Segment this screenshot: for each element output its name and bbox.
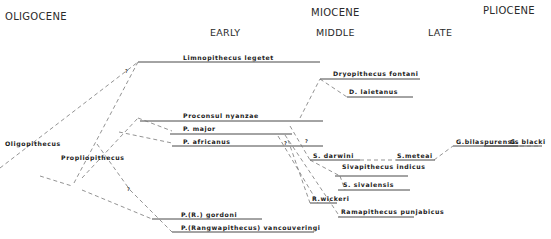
taxon-proconsul-nyanzae: Proconsul nyanzae: [183, 112, 259, 119]
uncertainty-mark: ?: [305, 138, 308, 144]
subdivision-label-early: EARLY: [210, 27, 240, 38]
epoch-label-miocene: MIOCENE: [311, 7, 360, 18]
uncertainty-mark: ?: [125, 68, 128, 74]
taxon-s-meteai: S.meteai: [397, 152, 433, 159]
epoch-label-oligocene: OLIGOCENE: [5, 11, 67, 22]
taxon-propliopithecus: Propliopithecus: [61, 154, 125, 161]
taxon-sivapithecus-indicus: Sivapithecus indicus: [342, 163, 426, 170]
subdivision-label-middle: MIDDLE: [316, 27, 355, 38]
taxon-d-laietanus: D. laietanus: [349, 88, 398, 95]
taxon-dryopithecus-fontani: Dryopithecus fontani: [333, 70, 419, 77]
taxon-p-major: P. major: [183, 125, 216, 132]
taxon-p-r-gordoni: P.(R.) gordoni: [181, 211, 237, 218]
taxon-s-sivalensis: S. sivalensis: [343, 181, 394, 188]
taxon-r-wickeri: R.wickeri: [312, 195, 349, 202]
taxon-s-darwini: S. darwini: [313, 152, 354, 159]
taxon-ramapithecus-punjabicus: Ramapithecus punjabicus: [341, 208, 444, 215]
taxon-p-rangwapithecus-vancouveringi: P.(Rangwapithecus) vancouveringi: [181, 224, 321, 231]
uncertainty-mark: ?: [284, 140, 287, 146]
taxon-p-africanus: P. africanus: [183, 138, 230, 145]
taxon-limnopithecus-legetet: Limnopithecus legetet: [183, 54, 274, 61]
phylogeny-lines: [0, 0, 551, 239]
taxon-oligopithecus: Oligopithecus: [5, 140, 61, 147]
subdivision-label-late: LATE: [428, 27, 452, 38]
taxon-g-blacki: G. blacki: [510, 138, 546, 145]
epoch-label-pliocene: PLIOCENE: [483, 5, 535, 16]
uncertainty-mark: ?: [127, 186, 130, 192]
